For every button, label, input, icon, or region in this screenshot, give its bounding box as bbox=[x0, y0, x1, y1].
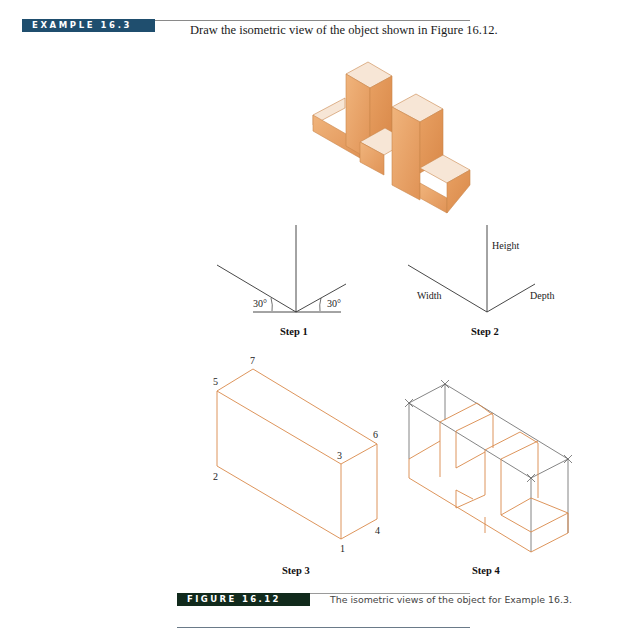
axis-height-label: Height bbox=[492, 240, 519, 251]
vertex-2: 2 bbox=[213, 471, 218, 482]
step3-label: Step 3 bbox=[282, 565, 310, 576]
step4-object bbox=[409, 403, 568, 552]
figure-drawings: 30° 30° Height Width Depth 1 2 3 4 5 6 7 bbox=[0, 0, 629, 641]
vertex-6: 6 bbox=[373, 429, 378, 440]
vertex-3: 3 bbox=[337, 450, 342, 461]
step1-angle-right: 30° bbox=[327, 298, 341, 309]
step4-label: Step 4 bbox=[472, 565, 500, 576]
figure-tag: FIGURE 16.12 bbox=[177, 593, 310, 606]
step3-box bbox=[217, 369, 377, 539]
vertex-1: 1 bbox=[340, 543, 345, 554]
figure-caption: The isometric views of the object for Ex… bbox=[330, 594, 572, 605]
bottom-divider bbox=[177, 627, 470, 628]
vertex-5: 5 bbox=[213, 376, 218, 387]
step2-label: Step 2 bbox=[471, 326, 499, 337]
vertex-4: 4 bbox=[375, 525, 380, 536]
axis-depth-label: Depth bbox=[530, 290, 554, 301]
shaded-object bbox=[313, 62, 470, 213]
axis-width-label: Width bbox=[417, 290, 442, 301]
step1-label: Step 1 bbox=[280, 326, 308, 337]
vertex-7: 7 bbox=[250, 355, 255, 366]
step1-angle-left: 30° bbox=[253, 298, 267, 309]
